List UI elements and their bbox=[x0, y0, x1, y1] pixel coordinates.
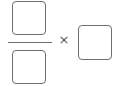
numerator-input-box[interactable] bbox=[12, 1, 46, 35]
fraction-bar bbox=[8, 42, 52, 43]
multiply-icon: × bbox=[58, 33, 70, 47]
factor-input-box[interactable] bbox=[78, 25, 112, 60]
denominator-input-box[interactable] bbox=[12, 50, 46, 84]
